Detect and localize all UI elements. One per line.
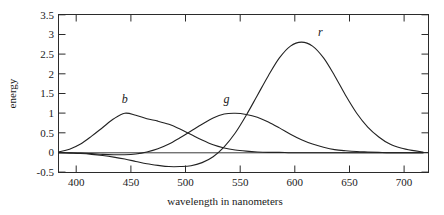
y-tick-label: 3 (49, 28, 55, 40)
curve-r (59, 42, 423, 167)
x-tick-label: 500 (177, 176, 194, 188)
x-tick-label: 650 (341, 176, 358, 188)
x-axis-title: wavelength in nanometers (167, 195, 282, 207)
y-tick-label: 2.5 (40, 48, 54, 60)
curve-label-r: r (318, 25, 323, 39)
chart-canvas: 3.5 3 2.5 2 1.5 1 0.5 0 -0.5 (0, 0, 444, 215)
x-tick-label: 400 (68, 176, 85, 188)
y-tick-label: 0 (49, 146, 55, 158)
y-axis-ticks (59, 15, 66, 172)
y-tick-label: 3.5 (40, 9, 54, 21)
y-tick-label: 1.5 (40, 87, 54, 99)
y-axis-title: energy (6, 78, 18, 108)
curve-label-b: b (122, 92, 128, 106)
x-axis-ticks (76, 166, 404, 173)
y-tick-label: -0.5 (37, 166, 55, 178)
y-tick-label: 1 (49, 107, 55, 119)
plot-frame (59, 15, 429, 173)
curve-label-g: g (223, 92, 229, 106)
curve-b (59, 113, 423, 153)
x-tick-label: 550 (232, 176, 249, 188)
y-tick-labels: 3.5 3 2.5 2 1.5 1 0.5 0 -0.5 (37, 9, 55, 178)
y-axis-ticks-right (422, 15, 429, 172)
x-axis-ticks-top (76, 15, 404, 22)
y-tick-label: 0.5 (40, 127, 54, 139)
x-tick-label: 450 (123, 176, 140, 188)
x-tick-label: 600 (287, 176, 304, 188)
chart-figure: 3.5 3 2.5 2 1.5 1 0.5 0 -0.5 (0, 0, 444, 215)
x-tick-labels: 400 450 500 550 600 650 700 (68, 176, 413, 188)
y-tick-label: 2 (49, 68, 55, 80)
x-tick-label: 700 (396, 176, 413, 188)
